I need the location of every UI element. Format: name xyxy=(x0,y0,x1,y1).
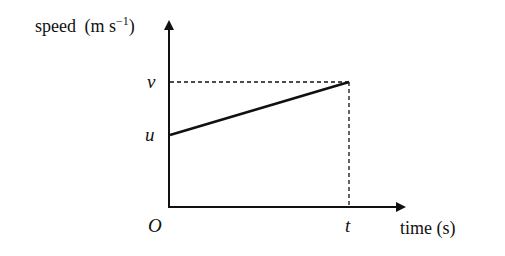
label-t: t xyxy=(345,215,351,236)
label-origin: O xyxy=(148,215,162,236)
label-v: v xyxy=(147,71,156,92)
speed-line xyxy=(170,82,349,135)
x-axis-label: time (s) xyxy=(400,218,456,239)
speed-time-diagram: speed (m s−1) v u O t time (s) xyxy=(0,0,505,256)
label-u: u xyxy=(145,124,155,145)
y-axis-label: speed (m s−1) xyxy=(35,14,135,37)
